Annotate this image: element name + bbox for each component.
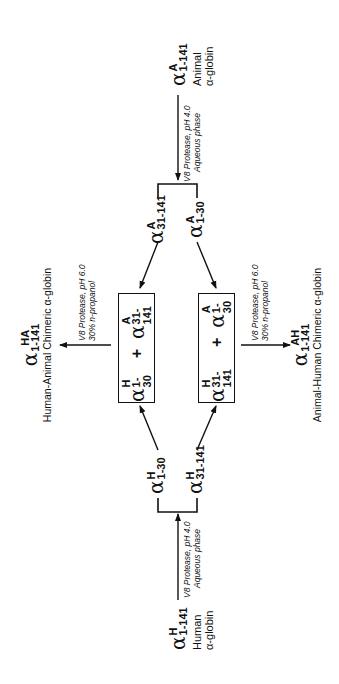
- animal-fragment-1-30: αA1-30: [185, 201, 206, 238]
- human-alpha-globin: αH1-141 Humanα-globin: [168, 607, 215, 650]
- human-fragment-31-141: αH31-141: [185, 445, 206, 494]
- complex-box-top: αH1-30 + αA31-141: [118, 293, 155, 403]
- product-animal-human-chimera: αAH1-141 Animal-Human Chimeric α-globin: [290, 265, 323, 425]
- animal-alpha-globin: αA1-141 Animalα-globin: [168, 43, 215, 86]
- human-bracket: [158, 498, 197, 512]
- product-human-animal-chimera: αHA1-141 Human-Animal Chimeric α-globin: [20, 265, 53, 425]
- animal-cleavage-conditions: V8 Protease, pH 4.0 Aqueous phase: [182, 105, 202, 182]
- animal-fragment-31-141: αA31-141: [146, 195, 167, 244]
- ligation-bottom-conditions: V8 Protease, pH 6.0 30% n-propanol: [250, 264, 270, 341]
- human-cleavage-conditions: V8 Protease, pH 4.0 Aqueous phase: [182, 521, 202, 598]
- semisynthesis-diagram: αH1-141 Humanα-globin V8 Protease, pH 4.…: [0, 0, 339, 684]
- human-fragment-1-30: αH1-30: [146, 457, 167, 494]
- complex-box-bottom: αH31-141 + αA1-30: [198, 293, 235, 403]
- ligation-top-conditions: V8 Protease, pH 6.0 30% n-propanol: [77, 264, 97, 341]
